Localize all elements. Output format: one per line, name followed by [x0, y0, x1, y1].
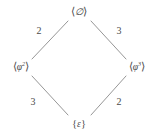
node-left-close-bracket: ⟩ — [25, 61, 29, 72]
lattice-diagram: ⟨∅⟩ ⟨φ2⟩ ⟨φ3⟩ {ε} 2 3 3 2 — [0, 0, 157, 137]
edge-bottom-left — [32, 76, 68, 115]
node-bottom: {ε} — [72, 119, 86, 130]
edge-label-top-left: 2 — [37, 26, 42, 36]
node-left: ⟨φ2⟩ — [13, 62, 30, 73]
node-top-close-bracket: ⟩ — [83, 6, 87, 17]
node-top: ⟨∅⟩ — [71, 7, 87, 18]
node-right: ⟨φ3⟩ — [129, 62, 146, 73]
node-bottom-close-bracket: } — [81, 118, 86, 129]
edge-label-bottom-left: 3 — [31, 97, 36, 107]
edge-label-top-right: 3 — [117, 26, 122, 36]
node-top-symbol: ∅ — [75, 7, 83, 17]
edge-label-bottom-right: 2 — [117, 97, 122, 107]
node-right-close-bracket: ⟩ — [141, 61, 145, 72]
